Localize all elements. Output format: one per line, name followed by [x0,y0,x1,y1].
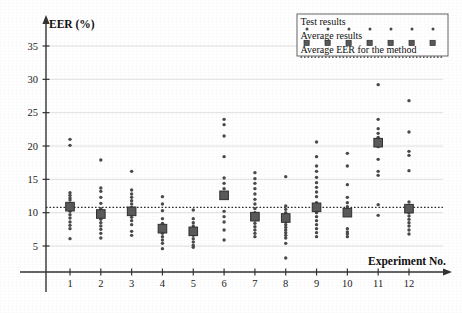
chart-container: 5101520253035 123456789101112 EER (%) Ex… [0,0,462,313]
x-tick-label: 2 [98,278,103,289]
data-point [222,176,225,179]
data-point [315,190,318,193]
data-point [130,188,133,191]
data-point [68,227,71,230]
data-point [315,231,318,234]
data-point [130,199,133,202]
data-point [222,238,225,241]
data-point [161,247,164,250]
average-marker [281,214,290,223]
data-point [161,195,164,198]
data-point [161,242,164,245]
average-marker [374,138,383,147]
data-point [315,155,318,158]
data-point [284,242,287,245]
data-point [130,170,133,173]
data-point [192,217,195,220]
x-tick-label: 12 [404,278,415,289]
data-point [407,214,410,217]
data-point [130,196,133,199]
data-point [284,175,287,178]
data-point [376,132,379,135]
data-point [315,186,318,189]
data-point [68,144,71,147]
data-point [222,220,225,223]
data-point [376,118,379,121]
data-point [407,221,410,224]
data-point [99,190,102,193]
data-point [99,202,102,205]
data-point [68,213,71,216]
x-tick-label: 9 [314,278,319,289]
data-point [99,221,102,224]
data-point [407,99,410,102]
x-tick-label: 8 [283,278,288,289]
legend-dot-sample [390,28,393,31]
data-point [346,164,349,167]
data-point [130,223,133,226]
data-point [376,170,379,173]
data-point [253,235,256,238]
legend-dot-sample [411,28,414,31]
x-axis-title: Experiment No. [368,255,446,268]
data-point [68,138,71,141]
x-tick-label: 6 [221,278,226,289]
data-point [192,237,195,240]
data-point [376,214,379,217]
data-point [407,154,410,157]
data-point [99,224,102,227]
data-point [68,224,71,227]
average-marker [220,191,229,200]
data-point [99,158,102,161]
average-marker [158,224,167,233]
x-tick-label: 1 [67,278,72,289]
data-point [130,234,133,237]
data-point [315,170,318,173]
data-point [99,196,102,199]
legend-label-0: Test results [301,16,346,27]
data-point [68,237,71,240]
data-point [161,217,164,220]
data-point [315,176,318,179]
data-point [253,225,256,228]
data-point [284,208,287,211]
data-point [253,177,256,180]
x-tick-label: 7 [252,278,257,289]
data-point [346,152,349,155]
legend-label-2: Average EER for the method [301,44,417,55]
data-point [407,169,410,172]
data-point [376,158,379,161]
data-point [222,215,225,218]
data-point [407,218,410,221]
data-point [315,140,318,143]
data-point [315,164,318,167]
average-marker [97,210,106,219]
data-point [99,236,102,239]
y-tick-label: 15 [28,174,39,185]
data-point [222,155,225,158]
data-point [222,134,225,137]
y-tick-label: 20 [28,141,39,152]
data-point [253,192,256,195]
data-point [253,202,256,205]
x-tick-label: 4 [160,278,166,289]
data-point [315,223,318,226]
data-point [192,221,195,224]
data-point [346,183,349,186]
data-point [284,256,287,259]
data-point [315,227,318,230]
data-point [407,150,410,153]
average-marker [189,227,198,236]
data-point [99,186,102,189]
data-point [346,196,349,199]
eer-scatter-plot: 5101520253035 123456789101112 EER (%) Ex… [0,0,462,313]
data-point [68,220,71,223]
data-point [99,232,102,235]
data-point [346,205,349,208]
average-marker [312,203,321,212]
data-point [192,246,195,249]
data-point [315,219,318,222]
data-point [407,232,410,235]
legend: Test resultsAverage resultsAverage EER f… [297,14,448,57]
data-point [130,230,133,233]
